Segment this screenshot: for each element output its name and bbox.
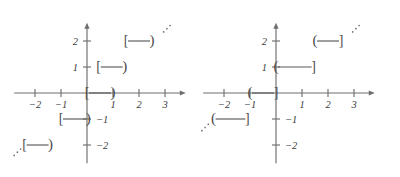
left-open-paren: (	[211, 110, 216, 127]
right-open-paren: )	[150, 32, 155, 49]
plot-panel-right: −2−112321−1−2(](](](]	[200, 0, 400, 177]
x-tick-label: 3	[161, 99, 167, 110]
ellipsis-dot	[352, 31, 354, 33]
ellipsis-dot	[166, 28, 168, 30]
y-tick-label: −2	[285, 140, 298, 151]
left-open-paren: (	[313, 32, 318, 49]
x-tick-group: −2−1123	[29, 89, 168, 110]
x-tick-label: 2	[136, 99, 142, 110]
y-tick-label: −1	[285, 114, 297, 125]
left-closed-bracket: [	[22, 137, 27, 152]
x-tick-label: −2	[29, 99, 42, 110]
y-tick-label: 2	[73, 36, 79, 47]
right-closed-bracket: ]	[311, 59, 316, 74]
ellipsis-dot	[163, 31, 165, 33]
right-closed-bracket: ]	[274, 85, 279, 100]
y-tick-label: −2	[96, 140, 109, 151]
right-open-paren: )	[48, 136, 53, 153]
x-tick-label: 3	[350, 99, 356, 110]
x-tick-label: 1	[110, 99, 115, 110]
y-tick-label: 2	[262, 36, 268, 47]
coordinate-plot-left: −2−112321−1−2[)[)[)[)[)	[0, 0, 200, 177]
ellipsis-dot	[20, 148, 22, 150]
plot-panel-left: −2−112321−1−2[)[)[)[)[)	[0, 0, 200, 177]
x-tick-label: 2	[325, 99, 331, 110]
left-open-paren: (	[274, 58, 279, 75]
x-axis-arrowhead	[369, 90, 375, 95]
ellipsis-dot	[204, 127, 206, 129]
left-closed-bracket: [	[85, 85, 90, 100]
left-open-paren: (	[248, 84, 253, 101]
x-axis-arrowhead	[180, 90, 186, 95]
ellipsis-dot	[355, 28, 357, 30]
x-tick-label: −1	[55, 99, 67, 110]
ellipsis-dot	[169, 25, 171, 27]
right-closed-bracket: ]	[245, 111, 250, 126]
ellipsis-dot	[201, 130, 203, 132]
x-tick-group: −2−1123	[218, 89, 357, 110]
x-tick-label: −1	[244, 99, 256, 110]
y-axis-arrowhead	[273, 23, 278, 29]
right-open-paren: )	[86, 110, 91, 127]
left-closed-bracket: [	[59, 111, 64, 126]
ellipsis-dot	[13, 155, 15, 157]
x-tick-label: −2	[218, 99, 231, 110]
y-tick-label: −1	[96, 114, 108, 125]
ellipsis-dot	[17, 151, 19, 153]
ellipsis-group	[13, 25, 171, 157]
step-segments-group: (](](](]	[211, 32, 343, 127]
right-open-paren: )	[122, 58, 127, 75]
left-closed-bracket: [	[96, 59, 101, 74]
y-tick-label: 1	[262, 62, 267, 73]
right-open-paren: )	[111, 84, 116, 101]
figure-root: −2−112321−1−2[)[)[)[)[) −2−112321−1−2(](…	[0, 0, 400, 177]
x-tick-label: 1	[299, 99, 304, 110]
ellipsis-dot	[207, 123, 209, 125]
right-closed-bracket: ]	[339, 33, 344, 48]
coordinate-plot-right: −2−112321−1−2(](](](]	[200, 0, 400, 177]
y-tick-label: 1	[73, 62, 78, 73]
y-axis-arrowhead	[84, 23, 89, 29]
ellipsis-dot	[358, 25, 360, 27]
left-closed-bracket: [	[124, 33, 129, 48]
